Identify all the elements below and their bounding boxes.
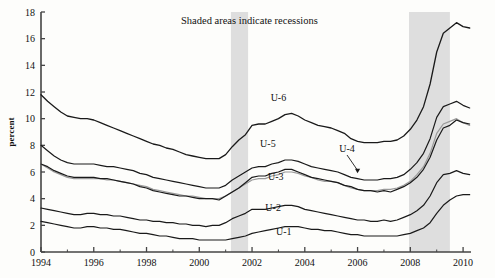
series-line-u-6 [41, 23, 470, 159]
y-tick-label: 4 [30, 193, 35, 204]
label-u4-arrow-line [347, 155, 358, 170]
y-tick-label: 14 [25, 60, 35, 71]
y-tick-label: 6 [30, 167, 35, 178]
series-line-u-5 [41, 101, 470, 188]
recession-note: Shaded areas indicate recessions [181, 15, 318, 26]
unemployment-rates-chart: 0246810121416181994199619982000200220042… [0, 0, 495, 278]
label-u6: U-6 [271, 92, 287, 103]
x-tick-label: 2004 [295, 257, 315, 268]
y-tick-label: 2 [30, 220, 35, 231]
x-tick-label: 1996 [84, 257, 104, 268]
x-tick-label: 2006 [348, 257, 368, 268]
chart-canvas: 0246810121416181994199619982000200220042… [0, 0, 495, 278]
x-tick-label: 1998 [137, 257, 157, 268]
y-tick-label: 12 [25, 87, 35, 98]
label-u4-arrow-head [355, 169, 360, 174]
series-line-u-4 [41, 119, 470, 199]
y-tick-label: 0 [30, 247, 35, 258]
x-tick-label: 2008 [400, 257, 420, 268]
x-tick-label: 2000 [189, 257, 209, 268]
label-u2: U-2 [265, 202, 281, 213]
y-axis-title: percent [6, 118, 16, 147]
x-tick-label: 2010 [453, 257, 473, 268]
recession-2008 [409, 12, 450, 252]
y-tick-label: 10 [25, 113, 35, 124]
x-tick-label: 1994 [31, 257, 51, 268]
label-u1: U-1 [276, 226, 292, 237]
y-tick-label: 8 [30, 140, 35, 151]
label-u4: U-4 [339, 143, 355, 154]
label-u5: U-5 [260, 138, 276, 149]
x-tick-label: 2002 [242, 257, 262, 268]
series-line-u-3 [41, 120, 470, 200]
y-tick-label: 16 [25, 33, 35, 44]
series-line-u-1 [41, 195, 470, 240]
y-tick-label: 18 [25, 7, 35, 18]
label-u3: U-3 [268, 171, 284, 182]
